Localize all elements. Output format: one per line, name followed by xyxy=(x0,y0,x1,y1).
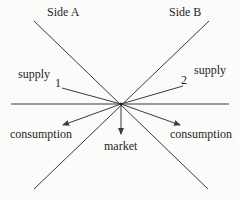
consumption-right-arrow xyxy=(121,104,180,125)
side-b-label: Side B xyxy=(169,6,201,18)
consumption-right-label: consumption xyxy=(170,128,232,140)
side-a-label: Side A xyxy=(47,6,79,18)
supply-2-line xyxy=(121,86,183,104)
center-node xyxy=(119,102,122,105)
supply-left-label: supply xyxy=(18,68,50,80)
supply-right-label: supply xyxy=(194,64,226,76)
marker-1-label: 1 xyxy=(55,77,61,89)
market-label: market xyxy=(104,140,137,152)
consumption-left-label: consumption xyxy=(10,128,72,140)
diagram-lines xyxy=(0,0,239,200)
diagram-canvas: Side A Side B supply 1 supply 2 consumpt… xyxy=(0,0,239,200)
marker-2-label: 2 xyxy=(181,74,187,86)
